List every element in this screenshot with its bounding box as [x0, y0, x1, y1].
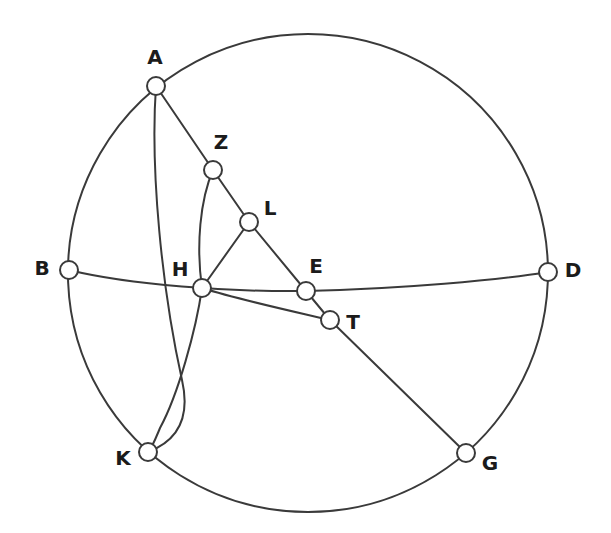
line-segment-az [156, 86, 213, 170]
line-segment-lh [202, 222, 249, 288]
arc-segment-zh [199, 170, 213, 288]
main-circle-outline [68, 34, 548, 512]
arc-segment-hk [148, 288, 202, 452]
line-segment-le [249, 222, 306, 291]
point-label-d: D [565, 258, 582, 282]
geometry-figure: A Z L B H E D T K G [0, 0, 611, 533]
point-label-g: G [482, 451, 498, 475]
point-node-b [60, 261, 78, 279]
point-node-e [297, 282, 315, 300]
point-label-l: L [264, 196, 277, 220]
point-label-z: Z [214, 130, 229, 154]
point-node-a [147, 77, 165, 95]
point-node-h [193, 279, 211, 297]
point-label-t: T [346, 310, 360, 334]
line-segment-tg [330, 320, 466, 453]
geometry-diagram-canvas: A Z L B H E D T K G [0, 0, 611, 533]
point-label-b: B [34, 256, 49, 280]
point-node-l [240, 213, 258, 231]
point-label-e: E [309, 254, 323, 278]
point-node-g [457, 444, 475, 462]
point-label-h: H [172, 257, 189, 281]
point-label-k: K [115, 446, 132, 470]
point-label-a: A [147, 45, 163, 69]
point-node-d [539, 263, 557, 281]
point-node-k [139, 443, 157, 461]
point-node-z [204, 161, 222, 179]
point-node-t [321, 311, 339, 329]
